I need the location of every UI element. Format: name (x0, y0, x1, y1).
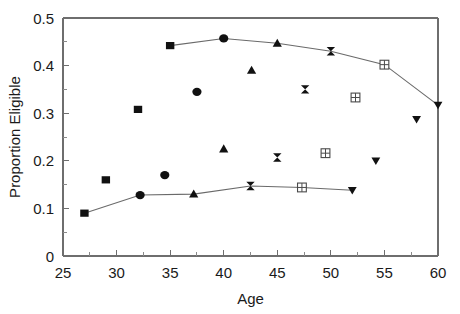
y-tick-label: 0.1 (33, 200, 54, 217)
marker-filled-triangle-down (412, 116, 421, 124)
marker-filled-triangle-up (219, 144, 228, 152)
data-point (192, 88, 201, 96)
marker-bowtie (301, 85, 309, 93)
marker-filled-triangle-down (348, 187, 357, 195)
tick-labels-group: 00.10.20.30.40.52530354045505560 (33, 10, 446, 282)
y-tick-label: 0.3 (33, 105, 54, 122)
data-point (219, 144, 228, 152)
data-point (371, 157, 380, 165)
x-tick-label: 25 (55, 264, 72, 281)
marker-filled-square (134, 106, 142, 113)
x-tick-label: 45 (269, 264, 286, 281)
x-tick-label: 50 (323, 264, 340, 281)
x-tick-label: 40 (215, 264, 232, 281)
marker-filled-square (102, 176, 110, 183)
data-point (412, 116, 421, 124)
tick-marks-group (63, 18, 438, 256)
marker-filled-square (166, 42, 174, 49)
y-tick-label: 0.5 (33, 10, 54, 27)
axes-group (63, 18, 438, 256)
marker-bowtie (273, 153, 281, 161)
data-point (273, 153, 281, 161)
x-tick-label: 60 (430, 264, 447, 281)
data-point (351, 93, 360, 102)
data-point (166, 42, 174, 49)
x-tick-label: 35 (162, 264, 179, 281)
proportion-eligible-scatter-chart: 00.10.20.30.40.52530354045505560 Age Pro… (0, 0, 460, 314)
trend-line-lower (84, 186, 352, 213)
chart-container: 00.10.20.30.40.52530354045505560 Age Pro… (0, 0, 460, 314)
data-point (102, 176, 110, 183)
marker-filled-triangle-down (434, 102, 443, 110)
x-tick-label: 30 (108, 264, 125, 281)
x-tick-label: 55 (376, 264, 393, 281)
data-point (434, 102, 443, 110)
data-point (160, 171, 169, 179)
data-point (247, 66, 256, 74)
data-point (301, 85, 309, 93)
marker-filled-triangle-up (247, 66, 256, 74)
y-tick-label: 0.2 (33, 152, 54, 169)
marker-filled-square (80, 210, 88, 217)
x-axis-title: Age (237, 290, 264, 307)
data-point (348, 187, 357, 195)
data-markers-group (80, 34, 442, 216)
trend-line-upper (170, 38, 438, 105)
data-point (380, 60, 389, 69)
data-point (321, 149, 330, 158)
data-point (298, 183, 307, 192)
y-tick-label: 0.4 (33, 57, 54, 74)
marker-filled-circle (192, 88, 201, 96)
marker-filled-circle (219, 34, 228, 42)
data-point (134, 106, 142, 113)
marker-filled-circle (160, 171, 169, 179)
marker-filled-circle (136, 191, 145, 199)
y-tick-label: 0 (46, 248, 54, 265)
data-point (80, 210, 88, 217)
marker-filled-triangle-down (371, 157, 380, 165)
y-axis-title: Proportion Eligible (6, 76, 23, 198)
data-point (219, 34, 228, 42)
data-point (136, 191, 145, 199)
